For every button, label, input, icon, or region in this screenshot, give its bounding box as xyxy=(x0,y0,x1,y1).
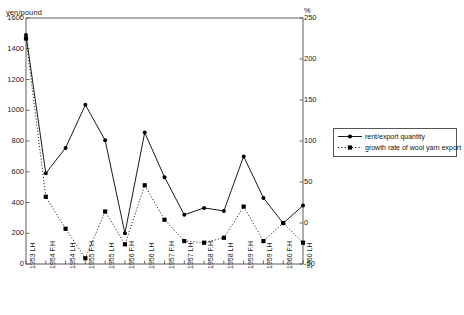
data-point-marker xyxy=(301,241,305,245)
series-line-0 xyxy=(26,35,303,233)
legend-solid-line-circle-icon xyxy=(337,132,363,141)
data-point-marker xyxy=(44,171,48,175)
data-point-marker xyxy=(281,221,285,225)
data-point-marker xyxy=(143,131,147,135)
data-point-marker xyxy=(163,175,167,179)
data-point-marker xyxy=(123,231,127,235)
data-point-marker xyxy=(103,138,107,142)
legend-item-rent-export-quantity: rent/export quantity xyxy=(337,131,453,142)
data-point-marker xyxy=(83,256,87,260)
data-point-marker xyxy=(242,154,246,158)
legend-label-0: rent/export quantity xyxy=(365,133,425,140)
data-point-marker xyxy=(261,239,265,243)
data-point-marker xyxy=(63,227,67,231)
data-point-marker xyxy=(24,36,28,40)
data-point-marker xyxy=(162,218,166,222)
data-point-marker xyxy=(222,209,226,213)
chart-legend: rent/export quantity growth rate of wool… xyxy=(333,128,457,157)
legend-label-1: growth rate of wool yarn export xyxy=(365,144,461,151)
series-line-1 xyxy=(26,39,303,259)
data-point-marker xyxy=(64,146,68,150)
data-point-marker xyxy=(143,183,147,187)
data-point-marker xyxy=(24,33,28,37)
data-point-marker xyxy=(182,213,186,217)
data-point-marker xyxy=(222,236,226,240)
legend-item-growth-rate-wool-yarn-export: growth rate of wool yarn export xyxy=(337,142,453,153)
data-point-marker xyxy=(123,242,127,246)
data-point-marker xyxy=(301,204,305,208)
plot-area-svg xyxy=(0,0,464,315)
legend-dotted-line-square-icon xyxy=(337,143,363,152)
data-point-marker xyxy=(182,239,186,243)
data-point-marker xyxy=(242,205,246,209)
data-point-marker xyxy=(202,206,206,210)
data-point-marker xyxy=(83,103,87,107)
data-point-marker xyxy=(202,241,206,245)
data-point-marker xyxy=(261,196,265,200)
data-point-marker xyxy=(44,195,48,199)
data-point-marker xyxy=(103,209,107,213)
chart-figure: yen/pound % 0200400600800100012001400160… xyxy=(0,0,464,315)
